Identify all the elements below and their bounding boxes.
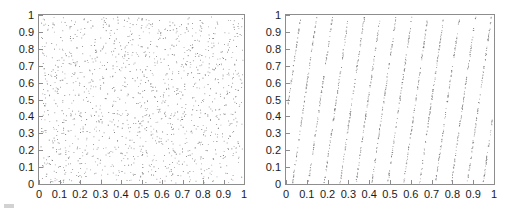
y-tick-7 xyxy=(39,66,43,67)
y-tick-label-10: 1 xyxy=(10,10,34,21)
x-tick-4 xyxy=(121,180,122,184)
y-tick-6 xyxy=(286,83,290,84)
y-tick-label-5: 0.5 xyxy=(10,94,34,105)
y-tick-7 xyxy=(286,66,290,67)
x-tick-5 xyxy=(390,180,391,184)
y-tick-label-3: 0.3 xyxy=(10,128,34,139)
y-tick-label-5: 0.5 xyxy=(257,94,281,105)
plot-area-lattice-generator xyxy=(285,14,495,185)
y-tick-label-1: 0.1 xyxy=(10,162,34,173)
x-tick-label-9: 0.9 xyxy=(216,189,231,200)
x-tick-label-2: 0.2 xyxy=(72,189,87,200)
x-tick-1 xyxy=(307,180,308,184)
y-tick-4 xyxy=(39,116,43,117)
y-tick-label-0: 0 xyxy=(10,179,34,190)
x-tick-label-6: 0.6 xyxy=(154,189,169,200)
y-tick-9 xyxy=(39,32,43,33)
x-tick-10 xyxy=(244,180,245,184)
scatter-points-lattice-generator xyxy=(286,15,494,184)
scan-artifact-speck xyxy=(4,204,14,208)
x-tick-1 xyxy=(60,180,61,184)
y-tick-label-9: 0.9 xyxy=(257,26,281,37)
x-tick-label-10: 1 xyxy=(241,189,247,200)
x-tick-label-7: 0.7 xyxy=(424,189,439,200)
x-tick-8 xyxy=(452,180,453,184)
y-tick-4 xyxy=(286,116,290,117)
y-tick-8 xyxy=(286,49,290,50)
x-tick-3 xyxy=(101,180,102,184)
x-tick-10 xyxy=(494,180,495,184)
y-tick-3 xyxy=(39,133,43,134)
y-tick-0 xyxy=(39,184,43,185)
x-tick-6 xyxy=(162,180,163,184)
x-tick-9 xyxy=(224,180,225,184)
x-tick-label-10: 1 xyxy=(491,189,497,200)
y-tick-label-9: 0.9 xyxy=(10,26,34,37)
x-tick-4 xyxy=(369,180,370,184)
x-tick-9 xyxy=(473,180,474,184)
y-tick-label-6: 0.6 xyxy=(10,77,34,88)
panel-uniform-random: 00.10.20.30.40.50.60.70.80.91 00.10.20.3… xyxy=(0,0,256,209)
x-tick-label-8: 0.8 xyxy=(195,189,210,200)
y-tick-label-2: 0.2 xyxy=(10,145,34,156)
x-tick-label-6: 0.6 xyxy=(403,189,418,200)
x-tick-2 xyxy=(80,180,81,184)
y-tick-label-8: 0.8 xyxy=(10,43,34,54)
y-tick-8 xyxy=(39,49,43,50)
y-tick-label-3: 0.3 xyxy=(257,128,281,139)
scatter-points-uniform-random xyxy=(39,15,244,184)
y-tick-1 xyxy=(286,167,290,168)
y-tick-9 xyxy=(286,32,290,33)
y-tick-label-4: 0.4 xyxy=(257,111,281,122)
x-tick-label-9: 0.9 xyxy=(466,189,481,200)
x-tick-label-3: 0.3 xyxy=(93,189,108,200)
x-tick-label-0: 0 xyxy=(283,189,289,200)
x-tick-label-4: 0.4 xyxy=(362,189,377,200)
y-tick-label-7: 0.7 xyxy=(10,60,34,71)
x-tick-label-1: 0.1 xyxy=(52,189,67,200)
y-tick-label-4: 0.4 xyxy=(10,111,34,122)
x-tick-label-2: 0.2 xyxy=(320,189,335,200)
y-tick-2 xyxy=(39,150,43,151)
plot-area-uniform-random xyxy=(38,14,245,185)
x-tick-3 xyxy=(348,180,349,184)
y-tick-6 xyxy=(39,83,43,84)
y-tick-3 xyxy=(286,133,290,134)
x-tick-label-7: 0.7 xyxy=(175,189,190,200)
y-tick-5 xyxy=(286,100,290,101)
x-tick-8 xyxy=(203,180,204,184)
y-tick-0 xyxy=(286,184,290,185)
x-tick-label-0: 0 xyxy=(36,189,42,200)
y-tick-label-10: 1 xyxy=(257,10,281,21)
y-tick-10 xyxy=(39,15,43,16)
y-tick-label-0: 0 xyxy=(257,179,281,190)
y-tick-10 xyxy=(286,15,290,16)
x-tick-label-3: 0.3 xyxy=(341,189,356,200)
x-tick-7 xyxy=(183,180,184,184)
y-tick-label-2: 0.2 xyxy=(257,145,281,156)
y-tick-label-8: 0.8 xyxy=(257,43,281,54)
x-tick-6 xyxy=(411,180,412,184)
x-tick-label-5: 0.5 xyxy=(134,189,149,200)
x-tick-7 xyxy=(432,180,433,184)
y-tick-label-7: 0.7 xyxy=(257,60,281,71)
x-tick-5 xyxy=(142,180,143,184)
y-tick-1 xyxy=(39,167,43,168)
x-tick-2 xyxy=(328,180,329,184)
y-tick-label-6: 0.6 xyxy=(257,77,281,88)
x-tick-label-1: 0.1 xyxy=(299,189,314,200)
y-tick-label-1: 0.1 xyxy=(257,162,281,173)
y-tick-2 xyxy=(286,150,290,151)
x-tick-label-5: 0.5 xyxy=(382,189,397,200)
figure-random-generator-comparison: 00.10.20.30.40.50.60.70.80.91 00.10.20.3… xyxy=(0,0,513,209)
panel-lattice-generator: 00.10.20.30.40.50.60.70.80.91 00.10.20.3… xyxy=(256,0,513,209)
x-tick-label-8: 0.8 xyxy=(445,189,460,200)
y-tick-5 xyxy=(39,100,43,101)
x-tick-label-4: 0.4 xyxy=(113,189,128,200)
